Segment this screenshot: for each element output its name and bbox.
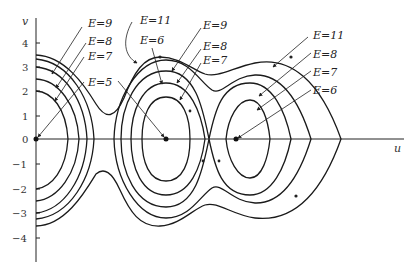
tick-label: −4 xyxy=(12,233,27,244)
label-right-e6: E=6 xyxy=(312,84,337,97)
label-right-e8: E=8 xyxy=(312,48,337,61)
tick-label: 3 xyxy=(22,62,28,73)
u-axis-label: u xyxy=(394,142,401,155)
tick-label: 1 xyxy=(22,111,28,122)
center-point-2 xyxy=(234,137,239,142)
tick-label: −3 xyxy=(12,208,27,219)
label-left-e7: E=7 xyxy=(87,50,112,63)
tick-label: 2 xyxy=(22,86,28,97)
label-left-e5: E=5 xyxy=(87,76,112,89)
tick-label: 4 xyxy=(22,38,28,49)
label-mid-e11: E=11 xyxy=(139,14,171,27)
v-axis-label: v xyxy=(22,15,29,28)
label-midright-e9: E=9 xyxy=(202,19,227,32)
tick-label: −2 xyxy=(12,184,27,195)
label-midright-e8: E=8 xyxy=(202,40,227,53)
label-midright-e7: E=7 xyxy=(202,54,227,67)
orbit-left-e5 xyxy=(36,91,68,189)
phase-portrait: v u 4 3 2 1 0 −1 −2 −3 −4 xyxy=(0,0,413,273)
tick-label: −1 xyxy=(12,159,27,170)
label-left-e9: E=9 xyxy=(87,17,112,30)
label-right-e7: E=7 xyxy=(312,66,337,79)
energy-labels: E=9 E=8 E=7 E=5 E=11 E=6 E=9 E=8 E=7 E=1… xyxy=(87,14,344,97)
label-left-e8: E=8 xyxy=(87,35,112,48)
tick-label: 0 xyxy=(22,134,28,145)
label-right-e11: E=11 xyxy=(312,29,344,42)
label-mid-e6: E=6 xyxy=(139,34,164,47)
origin-point xyxy=(34,137,39,142)
center-point-1 xyxy=(164,137,169,142)
